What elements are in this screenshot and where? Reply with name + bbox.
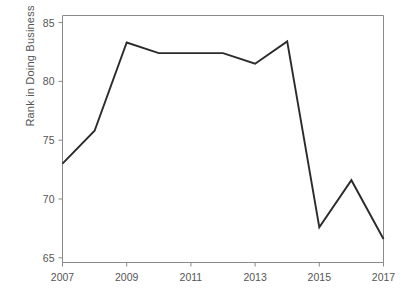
- x-tick-label: 2015: [297, 271, 341, 283]
- x-tick-label: 2017: [362, 271, 404, 283]
- x-tick-label: 2011: [169, 271, 213, 283]
- x-tick-label: 2013: [233, 271, 277, 283]
- y-tick-label: 80: [29, 75, 55, 87]
- x-tick-label: 2009: [105, 271, 149, 283]
- y-tick-label: 65: [29, 252, 55, 264]
- y-tick-label: 70: [29, 193, 55, 205]
- y-tick-label: 75: [29, 134, 55, 146]
- data-series-line: [63, 41, 384, 239]
- axis-ticks: [59, 23, 384, 267]
- plot-canvas: [0, 0, 404, 297]
- x-tick-label: 2007: [41, 271, 85, 283]
- y-tick-label: 85: [29, 17, 55, 29]
- line-chart: Rank in Doing Business 6570758085 200720…: [0, 0, 404, 297]
